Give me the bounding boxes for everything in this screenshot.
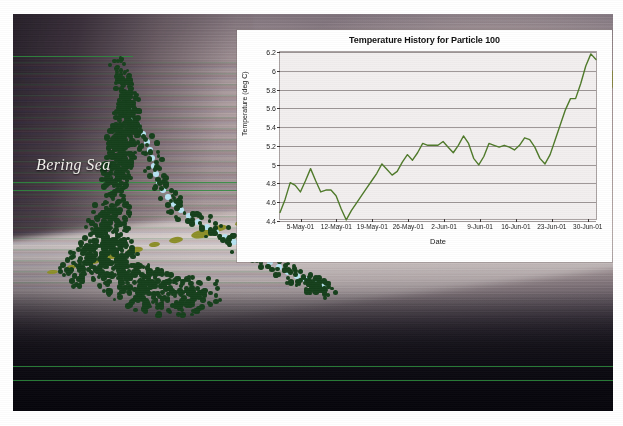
particle-marker bbox=[189, 220, 195, 226]
particle-marker bbox=[230, 250, 234, 254]
particle-marker bbox=[118, 285, 122, 289]
particle-marker bbox=[164, 185, 168, 189]
particle-marker bbox=[116, 268, 121, 273]
particle-marker bbox=[167, 280, 172, 285]
particle-marker bbox=[129, 142, 134, 147]
particle-marker bbox=[213, 299, 219, 305]
particle-marker bbox=[231, 239, 237, 245]
y-tick-label: 5.2 bbox=[266, 142, 276, 149]
particle-marker bbox=[148, 151, 152, 155]
y-tick-label: 6.2 bbox=[266, 49, 276, 56]
scanline-green-artifact bbox=[13, 366, 613, 367]
particle-marker bbox=[110, 194, 115, 199]
particle-marker bbox=[60, 262, 66, 268]
chart-y-axis-title: Temperature (deg C) bbox=[241, 71, 248, 136]
particle-marker bbox=[116, 240, 122, 246]
y-tick-label: 5.6 bbox=[266, 105, 276, 112]
chart-series-line bbox=[280, 52, 596, 220]
particle-marker bbox=[108, 63, 112, 67]
particle-marker bbox=[110, 129, 115, 134]
bering-sea-label: Bering Sea bbox=[36, 156, 111, 174]
particle-marker bbox=[91, 276, 95, 280]
particle-marker bbox=[195, 308, 200, 313]
y-tick-label: 5 bbox=[272, 161, 276, 168]
particle-marker bbox=[160, 290, 165, 295]
particle-marker bbox=[126, 226, 131, 231]
x-tick-label: 2-Jun-01 bbox=[431, 223, 457, 230]
particle-marker bbox=[135, 269, 141, 275]
particle-marker bbox=[198, 281, 203, 286]
particle-marker bbox=[178, 203, 183, 208]
particle-marker bbox=[68, 268, 74, 274]
particle-marker bbox=[228, 243, 232, 247]
particle-marker bbox=[71, 251, 76, 256]
particle-marker bbox=[96, 267, 100, 271]
particle-marker bbox=[117, 260, 121, 264]
scanline-green-artifact bbox=[13, 380, 613, 381]
chart-plot-area: 4.44.64.855.25.45.65.866.2 5-May-0112-Ma… bbox=[279, 51, 597, 220]
particle-marker bbox=[128, 214, 132, 218]
particle-marker bbox=[78, 260, 82, 264]
particle-marker bbox=[198, 221, 202, 225]
particle-marker bbox=[129, 239, 134, 244]
particle-marker bbox=[123, 242, 127, 246]
x-tick-label: 19-May-01 bbox=[357, 223, 388, 230]
particle-marker bbox=[154, 140, 160, 146]
particle-marker bbox=[157, 269, 163, 275]
particle-marker bbox=[181, 279, 185, 283]
particle-marker bbox=[86, 218, 91, 223]
particle-marker bbox=[215, 286, 220, 291]
particle-marker bbox=[286, 276, 290, 280]
particle-marker bbox=[298, 269, 303, 274]
screenshot-root: Bering Sea Temperature History for Parti… bbox=[0, 0, 623, 426]
particle-marker bbox=[105, 258, 111, 264]
particle-marker bbox=[158, 196, 163, 201]
particle-marker bbox=[133, 308, 137, 312]
particle-marker bbox=[153, 171, 159, 177]
particle-marker bbox=[122, 215, 128, 221]
particle-marker bbox=[108, 216, 112, 220]
x-tick-label: 9-Jun-01 bbox=[467, 223, 493, 230]
particle-marker bbox=[258, 264, 264, 270]
particle-marker bbox=[81, 271, 86, 276]
particle-marker bbox=[105, 238, 111, 244]
particle-marker bbox=[183, 302, 188, 307]
particle-marker bbox=[295, 283, 299, 287]
particle-marker bbox=[92, 202, 98, 208]
scanline-green-artifact bbox=[13, 190, 263, 191]
particle-marker bbox=[79, 244, 83, 248]
particle-marker bbox=[189, 285, 195, 291]
particle-marker bbox=[213, 226, 217, 230]
particle-marker bbox=[126, 90, 131, 95]
particle-marker bbox=[167, 285, 173, 291]
particle-marker bbox=[192, 292, 198, 298]
particle-marker bbox=[88, 232, 93, 237]
particle-marker bbox=[143, 151, 148, 156]
particle-marker bbox=[298, 278, 303, 283]
particle-marker bbox=[173, 303, 179, 309]
particle-marker bbox=[133, 122, 137, 126]
particle-marker bbox=[65, 257, 70, 262]
particle-marker bbox=[121, 194, 125, 198]
chart-x-axis-title: Date bbox=[279, 237, 597, 246]
particle-marker bbox=[165, 297, 170, 302]
y-tick-label: 5.4 bbox=[266, 124, 276, 131]
particle-marker bbox=[156, 311, 162, 317]
particle-marker bbox=[136, 108, 142, 114]
particle-marker bbox=[109, 274, 114, 279]
particle-marker bbox=[107, 208, 111, 212]
particle-marker bbox=[132, 287, 137, 292]
particle-marker bbox=[146, 291, 152, 297]
y-tick-label: 4.4 bbox=[266, 218, 276, 225]
particle-marker bbox=[123, 130, 128, 135]
particle-marker bbox=[183, 211, 187, 215]
scanline-green-artifact bbox=[13, 182, 275, 183]
particle-marker bbox=[155, 278, 161, 284]
particle-marker bbox=[124, 277, 129, 282]
x-tick-label: 12-May-01 bbox=[321, 223, 352, 230]
particle-marker bbox=[79, 278, 85, 284]
particle-marker bbox=[187, 278, 191, 282]
particle-marker bbox=[104, 193, 109, 198]
particle-marker bbox=[101, 226, 105, 230]
particle-marker bbox=[159, 157, 165, 163]
